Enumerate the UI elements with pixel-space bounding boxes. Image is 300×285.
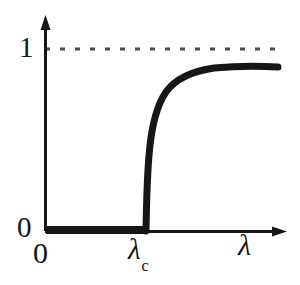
arrow-right-icon (272, 227, 287, 237)
arrow-up-icon (41, 15, 51, 30)
lambda-c-subscript: c (142, 257, 149, 274)
y-axis-tick-label-zero: 0 (17, 213, 32, 242)
lambda-c-base: λ (128, 233, 141, 265)
phase-transition-chart: 1 0 0 λc λ (0, 0, 300, 285)
curve-supercritical-branch (146, 66, 278, 231)
x-axis-origin-label: 0 (33, 238, 48, 268)
y-axis-tick-label-one: 1 (19, 33, 34, 62)
x-axis-critical-point-label: λc (128, 235, 148, 269)
x-axis-title-lambda: λ (238, 230, 251, 260)
